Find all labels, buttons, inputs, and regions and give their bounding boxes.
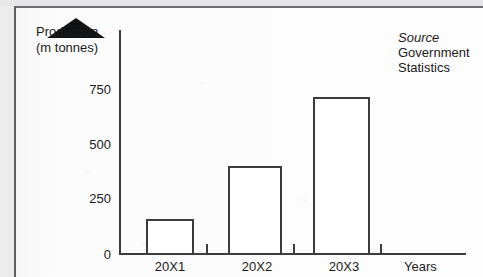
x-tick-label-20X1: 20X1 xyxy=(132,260,208,273)
y-tick-label-750: 750 xyxy=(71,83,111,96)
y-tick-label-250: 250 xyxy=(71,192,111,205)
x-tick-label-20X2: 20X2 xyxy=(219,260,295,273)
source-line-1: Government xyxy=(398,45,470,60)
page-left-margin xyxy=(0,6,14,277)
bar-20X1[interactable] xyxy=(146,219,194,255)
bar-chart: Production (m tonnes) 750 500 250 0 20X1… xyxy=(16,8,483,277)
y-axis-title-line2: (m tonnes) xyxy=(36,40,98,56)
chart-page: Production (m tonnes) 750 500 250 0 20X1… xyxy=(0,0,483,277)
x-tick-mark xyxy=(206,244,208,254)
y-axis-title-line1: Production xyxy=(36,24,98,40)
source-line-2: Statistics xyxy=(398,60,470,75)
x-tick-mark xyxy=(119,244,121,254)
y-tick-label-500: 500 xyxy=(71,138,111,151)
x-tick-label-20X3: 20X3 xyxy=(306,260,382,273)
source-annotation: Source Government Statistics xyxy=(398,30,470,75)
x-tick-mark xyxy=(293,244,295,254)
bar-20X3[interactable] xyxy=(313,97,370,255)
x-axis-title: Years xyxy=(404,260,437,273)
y-axis-line xyxy=(119,30,121,254)
source-label: Source xyxy=(398,30,470,45)
y-axis-title: Production (m tonnes) xyxy=(36,24,98,56)
bar-20X2[interactable] xyxy=(228,166,282,255)
x-tick-mark xyxy=(380,244,382,254)
y-tick-label-0: 0 xyxy=(71,248,111,261)
